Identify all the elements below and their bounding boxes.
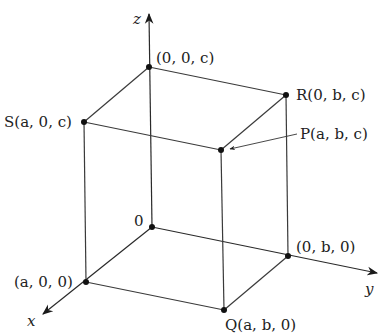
point-Q: [221, 307, 227, 313]
label-a00: (a, 0, 0): [14, 273, 73, 291]
edge-P-Q: [221, 150, 224, 310]
x-axis-label: x: [27, 312, 36, 330]
edge-S-P: [84, 122, 221, 150]
point-a00: [83, 279, 89, 285]
label-0b0: (0, b, 0): [296, 238, 355, 256]
edge-a00-Q: [86, 282, 224, 310]
edge-R-P: [221, 95, 286, 150]
edge-S-a00: [84, 122, 86, 282]
y-axis-label: y: [364, 280, 374, 298]
x-axis: [43, 227, 152, 314]
label-00c: (0, 0, c): [156, 49, 214, 67]
point-P: [218, 147, 224, 153]
label-Q: Q(a, b, 0): [225, 316, 296, 333]
z-axis: [149, 14, 152, 227]
edge-00c-R: [149, 67, 286, 95]
label-R: R(0, b, c): [296, 86, 366, 104]
point-0b0: [285, 253, 291, 259]
box-edges: [84, 67, 288, 310]
label-P: P(a, b, c): [300, 125, 368, 143]
point-S: [81, 119, 87, 125]
label-origin: 0: [134, 212, 144, 230]
point-R: [283, 92, 289, 98]
point-origin: [149, 224, 155, 230]
point-00c: [146, 64, 152, 70]
edge-00c-S: [84, 67, 149, 122]
coordinate-box-diagram: z y x 0 (a, 0, 0) (0, b, 0) (0, 0, c) Q(…: [0, 0, 385, 333]
edge-0b0-Q: [224, 256, 288, 310]
edge-R-0b0: [286, 95, 288, 256]
z-axis-label: z: [132, 10, 141, 28]
points: [81, 64, 291, 313]
label-S: S(a, 0, c): [4, 113, 72, 131]
